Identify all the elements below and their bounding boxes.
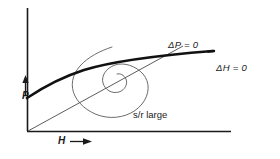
arrow-right-icon (70, 138, 92, 144)
regime-annotation: s/r large (133, 110, 167, 120)
figure-container: ΔP = 0 ΔH = 0 s/r large P H (0, 0, 280, 159)
delta-h-nullcline (27, 51, 213, 98)
y-axis-label: P (22, 91, 29, 101)
phase-plane-plot (0, 0, 280, 159)
delta-h-curve-label: ΔH = 0 (216, 63, 247, 73)
x-axis-label: H (58, 136, 65, 146)
spiral-trajectory (72, 47, 148, 117)
delta-p-curve-label: ΔP = 0 (168, 40, 198, 50)
delta-h-leader (208, 51, 214, 52)
